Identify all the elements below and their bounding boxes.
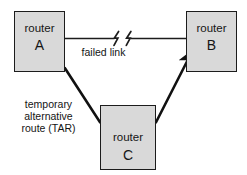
router-c-kind-label: router (101, 132, 155, 144)
router-a-kind-label: router (15, 23, 64, 35)
tar-label-line-3: route (TAR) (6, 123, 91, 135)
lightning-bolt-icon-left (114, 32, 119, 46)
network-diagram: router A router B router C failed link t… (0, 0, 247, 175)
router-a-node[interactable]: router A (14, 11, 65, 72)
link-break-icon (114, 32, 131, 46)
router-b-kind-label: router (187, 23, 236, 35)
tar-label-line-2: alternative (6, 111, 91, 123)
tar-label: temporary alternative route (TAR) (6, 99, 91, 134)
router-b-node[interactable]: router B (186, 11, 237, 72)
router-c-node[interactable]: router C (100, 105, 156, 170)
failed-link-label: failed link (0, 46, 227, 58)
router-c-ident-label: C (101, 148, 155, 162)
lightning-bolt-icon-right (126, 32, 131, 46)
